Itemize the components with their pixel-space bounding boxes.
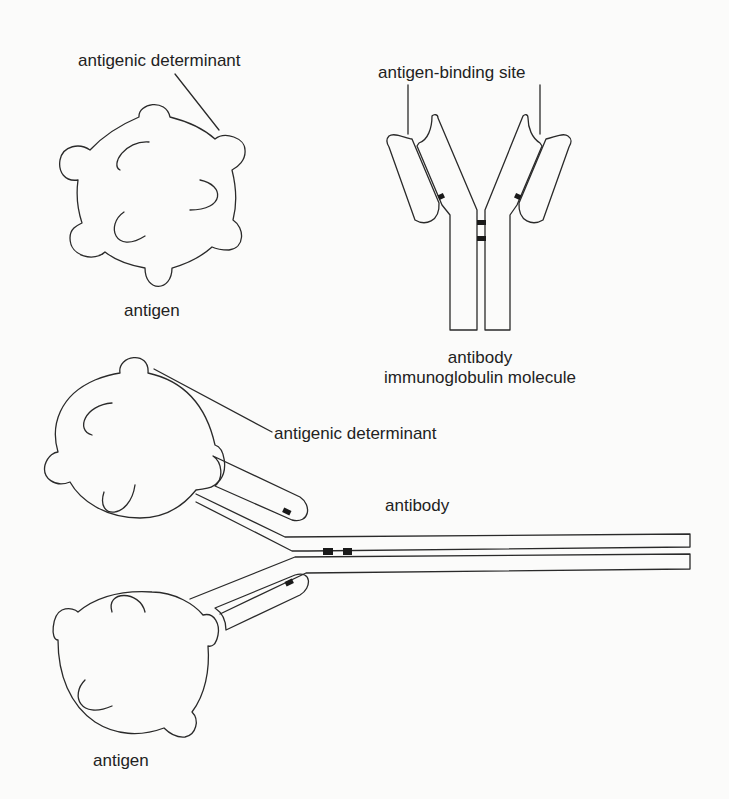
- antigen-bottom-lower: [53, 592, 218, 737]
- antigen-top: [60, 105, 245, 287]
- diagram-drawing: [0, 0, 729, 799]
- label-antibody-top: antibody: [380, 349, 580, 366]
- label-antigenic-determinant-bottom: antigenic determinant: [274, 425, 437, 442]
- disulfide-bonds-bottom: [282, 507, 352, 586]
- antigen-bottom-upper: [45, 358, 225, 518]
- label-immunoglobulin-molecule: immunoglobulin molecule: [360, 369, 600, 386]
- label-antigenic-determinant-top: antigenic determinant: [78, 52, 241, 69]
- antibody-top: [387, 115, 571, 330]
- antibody-bottom: [190, 456, 690, 630]
- label-antigen-binding-site: antigen-binding site: [378, 64, 525, 81]
- label-antigen-top: antigen: [124, 302, 180, 319]
- leader-determinant-top: [175, 74, 219, 130]
- label-antibody-bottom: antibody: [385, 497, 449, 514]
- leader-determinant-bottom: [154, 369, 272, 432]
- antigen-antibody-diagram: antigenic determinant antigen antigen-bi…: [0, 0, 729, 799]
- label-antigen-bottom: antigen: [93, 752, 149, 769]
